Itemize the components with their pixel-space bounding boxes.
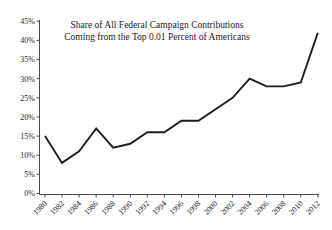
- x-axis-label: 2002: [219, 199, 237, 217]
- plot-area: [45, 33, 318, 163]
- x-axis-label: 2006: [253, 199, 271, 217]
- x-axis-label: 1986: [82, 199, 100, 217]
- y-axis-label: 10%: [20, 151, 35, 160]
- x-axis-label: 1984: [65, 199, 83, 217]
- x-axis-label: 1980: [31, 199, 49, 217]
- x-axis-label: 2010: [287, 199, 305, 217]
- x-axis-label: 1990: [116, 199, 134, 217]
- x-axis-label: 1992: [134, 199, 152, 217]
- chart-title-line2: Coming from the Top 0.01 Percent of Amer…: [64, 32, 250, 42]
- y-axis-label: 20%: [20, 113, 35, 122]
- y-axis-label: 30%: [20, 75, 35, 84]
- x-axis-label: 1998: [185, 199, 203, 217]
- x-axis-label: 1982: [48, 199, 66, 217]
- y-axis-label: 25%: [20, 94, 35, 103]
- x-axis-label: 1988: [99, 199, 117, 217]
- x-axis-label: 1996: [168, 199, 186, 217]
- chart-title-line1: Share of All Federal Campaign Contributi…: [71, 20, 244, 30]
- data-series-line: [45, 33, 318, 163]
- y-axis-label: 45%: [20, 17, 35, 26]
- x-axis-label: 2004: [236, 199, 254, 217]
- x-axis-label: 1994: [151, 199, 169, 217]
- y-axis-label: 40%: [20, 36, 35, 45]
- axes: 0%5%10%15%20%25%30%35%40%45%198019821984…: [20, 17, 321, 217]
- x-axis-label: 2008: [270, 199, 288, 217]
- x-axis-label: 2000: [202, 199, 220, 217]
- y-axis-label: 0%: [24, 189, 35, 198]
- y-axis-label: 5%: [24, 170, 35, 179]
- chart-screen: Share of All Federal Campaign Contributi…: [0, 0, 332, 230]
- y-axis-label: 15%: [20, 132, 35, 141]
- line-chart: Share of All Federal Campaign Contributi…: [0, 0, 332, 230]
- y-axis-label: 35%: [20, 55, 35, 64]
- x-axis-label: 2012: [304, 199, 322, 217]
